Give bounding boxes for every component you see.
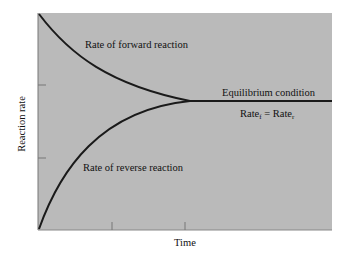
- chart: Rate of forward reaction Rate of reverse…: [0, 0, 354, 256]
- reverse-label: Rate of reverse reaction: [83, 162, 184, 173]
- x-axis-label: Time: [174, 237, 196, 248]
- equilibrium-label: Equilibrium condition: [222, 87, 316, 98]
- forward-label: Rate of forward reaction: [85, 39, 189, 50]
- y-axis-label: Reaction rate: [16, 96, 27, 152]
